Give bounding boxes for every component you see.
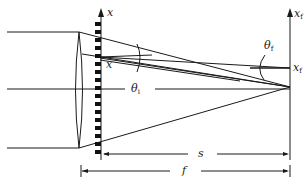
distance-f-label: f	[182, 165, 186, 176]
lens	[76, 32, 83, 148]
incident-ray-short	[100, 55, 152, 57]
grating-point-label-text: x	[106, 58, 112, 71]
grating	[95, 22, 101, 154]
grating-axis-label: x	[107, 7, 113, 18]
grating-axis-label-text: x	[107, 6, 113, 19]
focal-point-label: xf	[293, 62, 302, 75]
dim-f-right-arrow-icon	[283, 169, 289, 173]
focal-point-label-sub: f	[299, 67, 302, 75]
ray-bottom-converging	[79, 87, 290, 148]
distance-s-label-text: s	[198, 147, 204, 160]
optics-diagram	[0, 0, 305, 188]
dim-s-left-arrow-icon	[103, 152, 109, 156]
grating-point-label: x	[106, 59, 112, 70]
distance-f-label-text: f	[182, 164, 186, 177]
theta-i-label-sub: i	[138, 88, 140, 96]
diffracted-ray-3	[100, 60, 240, 81]
distance-s-label: s	[198, 148, 204, 159]
theta-i-label-text: θ	[131, 82, 138, 95]
theta-f-label-text: θ	[264, 39, 271, 52]
dim-s-right-arrow-icon	[283, 152, 289, 156]
theta-f-label-sub: f	[271, 45, 274, 53]
theta-i-label: θi	[131, 83, 140, 96]
theta-f-label: θf	[264, 40, 273, 53]
focal-axis-arrow-icon	[287, 8, 293, 17]
focal-axis-label: xf	[294, 8, 303, 21]
dim-f-left-arrow-icon	[82, 169, 88, 173]
focal-axis-label-sub: f	[300, 13, 303, 21]
grating-axis-arrow-icon	[98, 8, 104, 17]
